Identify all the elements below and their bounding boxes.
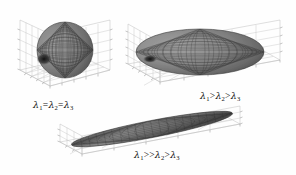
relation-1: >> bbox=[144, 150, 155, 160]
lambda-subscript-1: 1 bbox=[39, 104, 42, 111]
figure-canvas: λ1=λ2=λ3 λ1>λ2>λ3 λ1>>λ2>λ3 bbox=[0, 0, 296, 175]
lambda-subscript-2: 2 bbox=[222, 95, 225, 102]
caption-oblate: λ1>λ2>λ3 bbox=[200, 91, 240, 102]
lambda-symbol-2: λ bbox=[48, 99, 54, 110]
lambda-symbol-3: λ bbox=[64, 99, 70, 110]
caption-prolate: λ1>>λ2>λ3 bbox=[134, 150, 180, 161]
lambda-subscript-3: 3 bbox=[70, 104, 73, 111]
lambda-subscript-1: 1 bbox=[140, 154, 143, 161]
plot-oblate-ellipsoid bbox=[122, 2, 294, 100]
lambda-symbol-3: λ bbox=[231, 90, 237, 101]
sphere-svg bbox=[6, 2, 126, 100]
lambda-subscript-3: 3 bbox=[237, 95, 240, 102]
lambda-subscript-2: 2 bbox=[55, 104, 58, 111]
lambda-subscript-3: 3 bbox=[176, 154, 179, 161]
lambda-symbol-2: λ bbox=[215, 90, 221, 101]
caption-sphere: λ1=λ2=λ3 bbox=[33, 100, 73, 111]
lambda-subscript-2: 2 bbox=[161, 154, 164, 161]
oblate-surface bbox=[136, 29, 264, 75]
lambda-subscript-1: 1 bbox=[206, 95, 209, 102]
plot-sphere bbox=[6, 2, 126, 100]
oblate-svg bbox=[122, 2, 294, 100]
sphere-surface bbox=[37, 22, 94, 78]
